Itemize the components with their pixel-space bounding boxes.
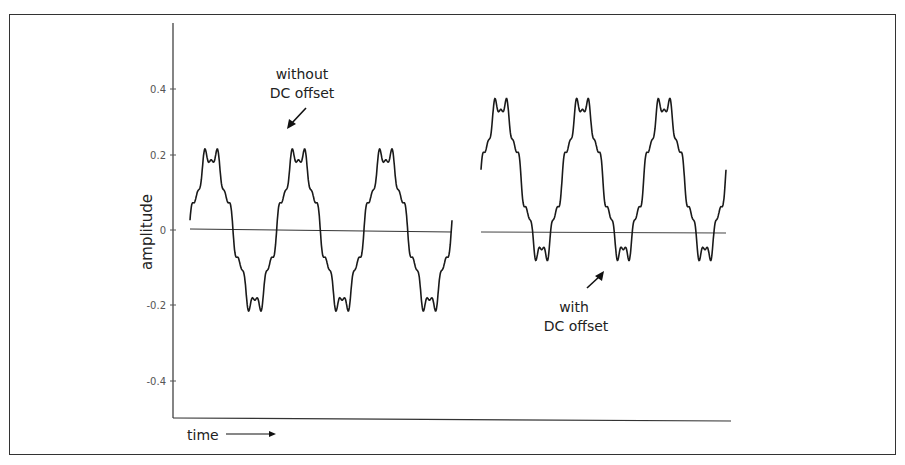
annotation-with-line1: with xyxy=(559,299,589,315)
x-axis-label: time xyxy=(187,427,219,443)
arrow-icon-right xyxy=(226,431,276,437)
y-axis-label: amplitude xyxy=(138,194,156,270)
y-tick-label: -0.4 xyxy=(146,376,166,387)
waveform-with-dc-offset xyxy=(481,99,726,261)
y-tick-label: -0.2 xyxy=(146,300,166,311)
y-tick-label: 0.4 xyxy=(150,84,166,95)
waveform-without-dc-offset xyxy=(190,149,452,311)
annotation-without-line1: without xyxy=(276,66,329,82)
chart-area: 0.4 0.2 0 -0.2 -0.4 amplitude without DC… xyxy=(0,0,905,465)
y-tick-label: 0 xyxy=(160,225,166,236)
x-axis xyxy=(173,418,731,421)
annotation-without-line2: DC offset xyxy=(270,85,335,101)
annotation-with-line2: DC offset xyxy=(544,318,609,334)
y-tick-label: 0.2 xyxy=(150,150,166,161)
arrow-icon-down-left xyxy=(287,108,306,129)
arrow-icon-up-right xyxy=(587,271,604,288)
baseline-right xyxy=(481,232,726,233)
